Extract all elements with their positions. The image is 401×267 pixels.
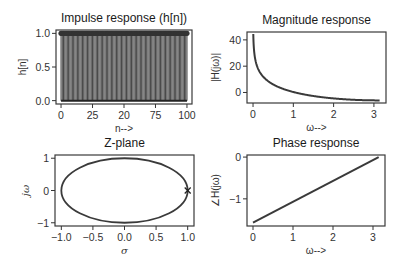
x-axis-label: n--> [115, 123, 133, 134]
y-tick-label: −1 [37, 217, 49, 229]
subplot-2: 012302040Magnitude responseω-->|H(jω)| [210, 13, 386, 133]
axes-frame [247, 32, 386, 103]
stem-series [58, 31, 189, 101]
y-tick-label: 20 [229, 60, 241, 72]
y-tick-label: −1 [229, 193, 241, 205]
x-tick-label: 3 [370, 231, 376, 243]
x-axis-label: ω--> [306, 245, 326, 256]
y-tick-label: 0 [235, 151, 241, 163]
x-tick-label: 2 [331, 108, 337, 120]
unit-circle [61, 158, 187, 223]
x-tick-label: 100 [178, 109, 196, 121]
x-axis-label: σ [121, 245, 129, 256]
y-tick-label: 1.0 [35, 27, 50, 39]
x-tick-label: 1.0 [180, 231, 195, 243]
figure: 02520751000.00.51.0Impulse response (h[n… [0, 0, 401, 267]
subplot-title: Magnitude response [262, 13, 371, 27]
axes-frame [55, 155, 194, 226]
subplot-title: Phase response [273, 136, 360, 150]
subplot-4: 0123−10Phase responseω-->∠H(jω) [210, 136, 385, 256]
y-tick-label: 1 [43, 152, 49, 164]
stem-marker [184, 31, 189, 36]
x-tick-label: −1.0 [51, 231, 72, 243]
y-axis-label: |H(jω)| [210, 53, 221, 82]
y-tick-label: 0 [43, 185, 49, 197]
x-tick-label: 0.5 [149, 231, 164, 243]
x-tick-label: 20 [118, 109, 130, 121]
x-tick-label: −0.5 [83, 231, 104, 243]
y-tick-label: 0.5 [35, 61, 50, 73]
y-tick-label: 0.0 [35, 95, 50, 107]
subplot-title: Impulse response (h[n]) [61, 11, 187, 25]
x-tick-label: 3 [371, 108, 377, 120]
subplot-title: Z-plane [104, 136, 145, 150]
subplot-3: −1.0−0.50.00.51.0−101Z-planeσjω [20, 136, 195, 256]
phase-line [253, 157, 379, 223]
y-axis-label: jω [20, 185, 31, 198]
y-tick-label: 0 [235, 86, 241, 98]
x-tick-label: 0 [250, 231, 256, 243]
x-tick-label: 75 [150, 109, 162, 121]
magnitude-line [253, 34, 379, 100]
y-tick-label: 40 [229, 34, 241, 46]
x-tick-label: 1 [290, 108, 296, 120]
x-tick-label: 2 [330, 231, 336, 243]
x-tick-label: 1 [290, 231, 296, 243]
x-tick-label: 0 [250, 108, 256, 120]
x-tick-label: 25 [87, 109, 99, 121]
subplot-1: 02520751000.00.51.0Impulse response (h[n… [17, 11, 196, 134]
x-tick-label: 0.0 [117, 231, 132, 243]
y-axis-label: h[n] [17, 58, 28, 75]
x-tick-label: 0 [58, 109, 64, 121]
x-axis-label: ω--> [306, 122, 326, 133]
y-axis-label: ∠H(jω) [210, 174, 221, 207]
